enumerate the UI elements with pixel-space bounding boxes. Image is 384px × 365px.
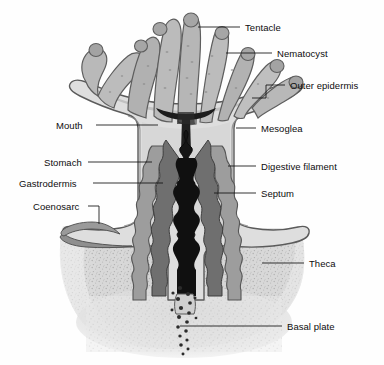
label-stomach: Stomach	[44, 158, 82, 168]
label-nematocyst: Nematocyst	[277, 49, 328, 59]
leader-line-coenosarc	[88, 206, 99, 224]
label-mouth: Mouth	[56, 121, 83, 131]
label-basal-plate: Basal plate	[287, 322, 335, 332]
label-gastrodermis: Gastrodermis	[19, 179, 77, 189]
label-coenosarc: Coenosarc	[33, 202, 79, 212]
label-digestive-filament: Digestive filament	[261, 162, 337, 172]
label-septum: Septum	[261, 189, 294, 199]
label-mesoglea: Mesoglea	[261, 124, 303, 134]
coral-polyp-diagram: TentacleNematocystOuter epidermisMesogle…	[0, 0, 384, 365]
label-outer-epidermis: Outer epidermis	[290, 81, 358, 91]
label-tentacle: Tentacle	[245, 23, 281, 33]
label-theca: Theca	[309, 259, 336, 269]
